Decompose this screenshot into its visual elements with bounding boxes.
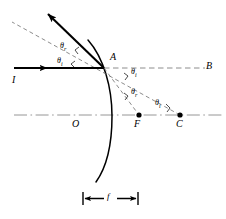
- angle-tick-incident-at-a: [124, 73, 128, 80]
- label-angle-incident-at-a: θi: [131, 68, 137, 78]
- label-axis-origin-o: O: [72, 119, 79, 129]
- theta-sub-reflected-upper: r: [64, 46, 66, 52]
- label-incident-ray-i: I: [12, 75, 15, 85]
- angle-tick-reflected-upper: [75, 47, 79, 54]
- label-angle-incident-upper: θi: [57, 57, 63, 67]
- theta-sub-reflected-mid: r: [135, 92, 137, 98]
- label-vertex-a: A: [110, 52, 116, 62]
- theta-sub-incident-upper: i: [61, 61, 63, 67]
- label-angle-incident-at-c: θi: [155, 99, 161, 109]
- focus-point-dot: [136, 112, 141, 117]
- label-angle-reflected-mid: θr: [131, 88, 137, 98]
- theta-sub-incident-at-c: i: [159, 103, 161, 109]
- center-point-dot: [177, 112, 182, 117]
- label-angle-reflected-upper: θr: [60, 42, 66, 52]
- label-center-c: C: [176, 119, 183, 129]
- angle-tick-incident-upper: [71, 61, 75, 67]
- mirror-surface: [88, 40, 112, 182]
- label-focus-f: F: [134, 119, 140, 129]
- theta-sub-incident-at-a: i: [135, 72, 137, 78]
- ray-diagram-figure: I A B O F C θr θi θi θr θi f: [0, 0, 226, 219]
- diagram-canvas: [0, 0, 226, 219]
- label-axis-end-b: B: [206, 61, 212, 71]
- label-focal-length-f: f: [107, 192, 110, 201]
